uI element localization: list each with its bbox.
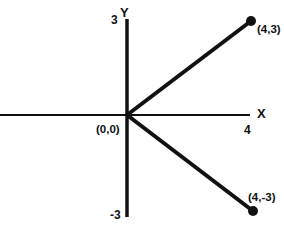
point-label-4-neg3: (4,-3): [248, 191, 276, 203]
segment-origin-to-4-neg3: [127, 115, 253, 211]
point-label-4-3: (4,3): [257, 23, 281, 35]
x-tick-label: 4: [244, 123, 251, 137]
y-axis-label: Y: [120, 5, 129, 20]
y-top-tick-label: 3: [111, 13, 118, 27]
point-4-neg3: [248, 206, 258, 216]
point-4-3: [246, 16, 256, 26]
x-axis-label: X: [257, 106, 266, 121]
coordinate-diagram: Y 3 -3 X 4 (0,0) (4,3) (4,-3): [0, 0, 284, 231]
segment-origin-to-4-3: [127, 21, 251, 115]
y-bottom-tick-label: -3: [110, 208, 121, 222]
origin-label: (0,0): [96, 123, 120, 135]
